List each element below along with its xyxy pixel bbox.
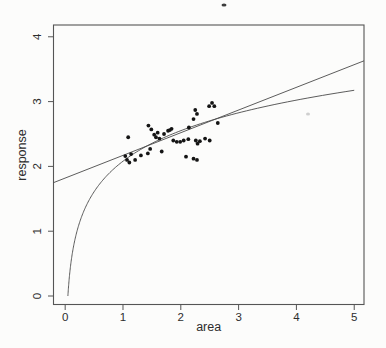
scatter-point xyxy=(127,161,131,165)
scatter-point xyxy=(154,135,158,139)
scatter-point xyxy=(162,132,166,136)
scatter-point xyxy=(187,126,191,130)
y-axis-title: response xyxy=(15,129,29,180)
x-axis-tick-label: 0 xyxy=(62,311,68,323)
scatter-point xyxy=(160,150,164,154)
scatter-point xyxy=(139,153,143,157)
scatter-point xyxy=(208,139,212,143)
scatter-point xyxy=(192,157,196,161)
scatter-point xyxy=(178,140,182,144)
scan-speck xyxy=(222,4,227,7)
x-axis-tick-label: 1 xyxy=(120,311,126,323)
scatter-point xyxy=(146,152,150,156)
scatter-points xyxy=(123,101,219,164)
y-axis-ticks: 01234 xyxy=(32,33,54,299)
scatter-point xyxy=(184,155,188,159)
scatter-point xyxy=(129,152,133,156)
scatter-point xyxy=(147,124,151,128)
scatter-point xyxy=(170,127,174,131)
scatter-point xyxy=(216,121,220,125)
scatter-point xyxy=(186,137,190,141)
scatter-point xyxy=(171,139,175,143)
scatter-point xyxy=(203,137,207,141)
scatter-point xyxy=(192,117,196,121)
scan-speck xyxy=(306,113,310,116)
scatter-plot-figure: 012345 01234 area response xyxy=(0,0,386,348)
scatter-point xyxy=(182,139,186,143)
scatter-point xyxy=(149,128,153,132)
scatter-point xyxy=(126,135,130,139)
scatter-point xyxy=(207,104,211,108)
scatter-point xyxy=(156,131,160,135)
scatter-point xyxy=(148,147,152,151)
linear-fit-line xyxy=(54,61,365,183)
scatter-point xyxy=(133,158,137,162)
x-axis-title: area xyxy=(196,320,221,334)
scan-artifacts xyxy=(222,4,311,116)
x-axis-tick-label: 2 xyxy=(178,311,184,323)
y-axis-tick-label: 4 xyxy=(32,33,44,40)
y-axis-tick-label: 2 xyxy=(32,163,44,169)
x-axis-tick-label: 4 xyxy=(293,311,300,323)
scatter-point xyxy=(194,139,198,143)
y-axis-tick-label: 0 xyxy=(32,293,44,299)
scatter-point xyxy=(158,137,162,141)
scatter-point xyxy=(212,104,216,108)
scatter-point xyxy=(193,108,197,112)
scatter-point xyxy=(210,101,214,105)
y-axis-tick-label: 1 xyxy=(32,228,44,234)
scatter-point xyxy=(195,112,199,116)
x-axis-tick-label: 5 xyxy=(351,311,357,323)
scatter-point xyxy=(175,140,179,144)
scatter-point xyxy=(198,139,202,143)
y-axis-tick-label: 3 xyxy=(32,98,44,104)
scatter-point xyxy=(123,154,127,158)
scatter-point xyxy=(195,158,199,162)
plot-canvas: 012345 01234 area response xyxy=(0,0,386,348)
fit-lines xyxy=(54,61,365,296)
x-axis-tick-label: 3 xyxy=(235,311,241,323)
